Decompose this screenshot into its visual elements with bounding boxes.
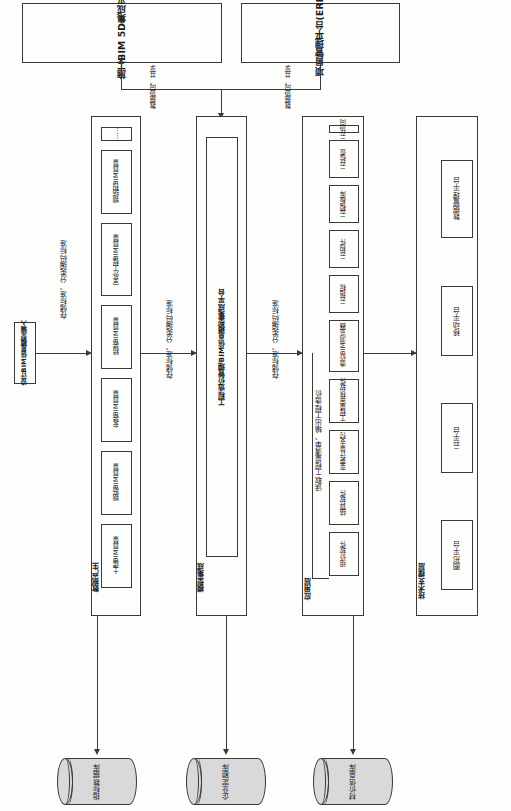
database-label-indicator: 指标数据库 bbox=[93, 764, 101, 800]
arrowhead-db-indicator bbox=[94, 749, 100, 755]
label-read-output: 读取工程量清单、输出工程造价 bbox=[315, 390, 323, 495]
connector-application-bracket-vert bbox=[312, 353, 313, 578]
connector-construction-vert bbox=[121, 63, 122, 89]
node-jiesuan-software: 结算软件 bbox=[329, 481, 359, 525]
layer-label-model-integration: 模型集成 bbox=[197, 563, 205, 596]
node-graphics-platform: 图形平台 bbox=[441, 520, 473, 590]
node-tujian-bim: 土建BIM算量 bbox=[101, 524, 132, 588]
connector-application-to-support bbox=[364, 353, 416, 354]
node-quantity-audit-software: 工程量审核软件 bbox=[329, 379, 359, 423]
database-enterprise-quota: 企业定额库 bbox=[186, 758, 266, 805]
node-ellipsis-datagen: …… bbox=[101, 127, 132, 141]
node-integration-platform: 工程造价管理BIM信息模型集成平台 bbox=[206, 137, 238, 557]
arrowhead-to-construction bbox=[118, 58, 124, 64]
node-gangjiegou-bim: 钢结构BIM算量 bbox=[101, 150, 132, 214]
node-bim-browser: 造价BIM浏览器 bbox=[329, 320, 359, 372]
connector-erp-vert bbox=[320, 63, 321, 89]
spine-application-down bbox=[353, 616, 354, 727]
spine-datagen-down bbox=[97, 616, 98, 727]
database-label-material-price: 材价信息库 bbox=[349, 764, 357, 800]
connector-application-bracket-foot bbox=[312, 578, 329, 579]
node-cloud-component: 云构件 bbox=[329, 230, 359, 268]
node-cloud-check: 云检查 bbox=[329, 140, 359, 178]
connector-integration-to-db-quota bbox=[226, 727, 227, 751]
spine-integration-down bbox=[226, 616, 227, 727]
node-cloud-platform: 云平台 bbox=[441, 403, 473, 473]
node-gangjin-bim: 钢筋BIM算量 bbox=[101, 451, 132, 515]
diagram-canvas: 施工BIM 5D集成平台 项目管理平台(ERP) 数据协同，共享 数据协同，共享… bbox=[0, 0, 511, 811]
label-share-left: 数据协同，共享 bbox=[150, 66, 157, 113]
node-biangeng-payment: 变更计量支付 bbox=[329, 430, 359, 474]
node-cloud-collaboration: 云协同 bbox=[329, 125, 359, 133]
arrowhead-db-quota bbox=[223, 749, 229, 755]
label-storage-standard-3: 存储标准、分类编码标准 bbox=[272, 300, 280, 383]
node-data-management-platform: 数据管理平台 bbox=[441, 160, 473, 238]
connector-input-to-datagen bbox=[36, 353, 91, 354]
node-shiwai-bim: 室外工程BIM算量 bbox=[101, 223, 132, 296]
node-cloud-template-library: 云模板库 bbox=[329, 185, 359, 223]
input-node-label: 设计BIM信息模型输入 bbox=[21, 321, 28, 385]
node-mobile-platform: 移动平台 bbox=[441, 286, 473, 356]
platform-box-construction: 施工BIM 5D集成平台 bbox=[22, 3, 222, 63]
node-jingzhuang-bim: 精装BIM算量 bbox=[101, 305, 132, 369]
arrowhead-db-price bbox=[350, 749, 356, 755]
input-node-box: 设计BIM信息模型输入 bbox=[14, 322, 36, 384]
label-storage-standard-1: 存储标准、分类编码标准 bbox=[60, 240, 68, 323]
layer-label-data-generation: 数据产生 bbox=[92, 563, 100, 596]
arrowhead-to-erp bbox=[317, 58, 323, 64]
connector-datagen-to-db-indicator bbox=[97, 727, 98, 751]
label-storage-standard-2: 存储标准、分类编码标准 bbox=[166, 300, 174, 383]
connector-bus-down bbox=[221, 89, 222, 115]
node-anzhuang-bim: 安装BIM算量 bbox=[101, 378, 132, 442]
database-material-price: 材价信息库 bbox=[313, 758, 393, 805]
database-label-enterprise-quota: 企业定额库 bbox=[222, 764, 230, 800]
layer-label-technical-support: 技术支撑层 bbox=[418, 563, 426, 603]
node-cloud-indicator: 云指标 bbox=[329, 275, 359, 313]
platform-box-erp: 项目管理平台(ERP) bbox=[241, 3, 400, 63]
layer-label-application: 应用层 bbox=[304, 578, 312, 604]
label-share-right: 数据协同，共享 bbox=[285, 66, 292, 113]
connector-application-to-db-price bbox=[353, 727, 354, 751]
node-zujia-software: 组价软件 bbox=[329, 532, 359, 576]
database-indicator: 指标数据库 bbox=[57, 758, 137, 805]
